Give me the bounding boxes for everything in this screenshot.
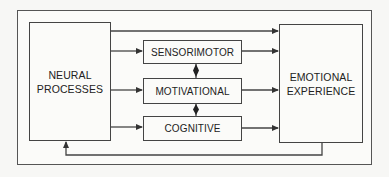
- sensorimotor-box: SENSORIMOTOR: [143, 40, 242, 64]
- sensorimotor-label: SENSORIMOTOR: [151, 46, 234, 59]
- neural-processes-box: NEURAL PROCESSES: [29, 22, 111, 141]
- motivational-box: MOTIVATIONAL: [143, 78, 242, 104]
- emotional-experience-box: EMOTIONAL EXPERIENCE: [279, 24, 363, 143]
- emotional-label-line2: EXPERIENCE: [287, 84, 356, 98]
- neural-label-line2: PROCESSES: [37, 82, 103, 96]
- cognitive-label: COGNITIVE: [165, 122, 221, 135]
- motivational-label: MOTIVATIONAL: [155, 85, 229, 98]
- cognitive-box: COGNITIVE: [143, 116, 242, 141]
- emotional-label-line1: EMOTIONAL: [287, 70, 356, 84]
- neural-label-line1: NEURAL: [37, 68, 103, 82]
